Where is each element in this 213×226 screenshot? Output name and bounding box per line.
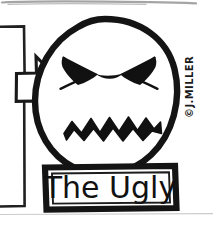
artist-signature: ©J.MILLER [184, 56, 195, 118]
artist-signature-label: ©J.MILLER [184, 56, 195, 118]
caption-label: The Ugly [43, 170, 176, 205]
cartoon-artwork: The Ugly ©J.MILLER [0, 0, 213, 226]
face-head-outline [35, 19, 177, 174]
scanned-cartoon-image: The Ugly ©J.MILLER [0, 0, 213, 226]
